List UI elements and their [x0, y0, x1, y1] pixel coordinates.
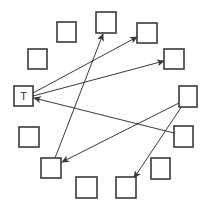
node-n5	[164, 49, 184, 69]
node-box	[174, 126, 193, 147]
node-n2	[57, 22, 76, 42]
node-T: T	[14, 86, 33, 106]
edge-arrow-n6-to-n11	[62, 103, 179, 162]
node-n8	[151, 158, 170, 179]
node-n9	[116, 177, 136, 198]
node-box	[116, 177, 136, 198]
node-box	[151, 158, 170, 179]
node-n1	[28, 49, 47, 69]
node-n4	[137, 23, 157, 43]
node-box	[19, 127, 39, 147]
node-box	[137, 23, 157, 43]
node-n3	[96, 12, 116, 33]
node-box	[179, 86, 197, 107]
edges-layer	[33, 34, 182, 178]
node-box	[41, 158, 61, 178]
edge-arrow-n7-to-T	[34, 98, 174, 133]
node-box	[57, 22, 76, 42]
node-box	[28, 49, 47, 69]
node-n11	[41, 158, 61, 178]
node-box	[96, 12, 116, 33]
edge-arrow-T-to-n4	[33, 37, 137, 93]
node-n12	[19, 127, 39, 147]
nodes-layer: T	[14, 12, 197, 198]
edge-arrow-T-to-n5	[33, 61, 164, 96]
node-box	[76, 177, 97, 198]
edge-arrow-n11-to-n3	[55, 34, 103, 158]
node-box	[164, 49, 184, 69]
node-n6	[179, 86, 197, 107]
node-label: T	[20, 90, 27, 102]
node-n7	[174, 126, 193, 147]
node-n10	[76, 177, 97, 198]
graph-diagram: T	[0, 0, 207, 210]
